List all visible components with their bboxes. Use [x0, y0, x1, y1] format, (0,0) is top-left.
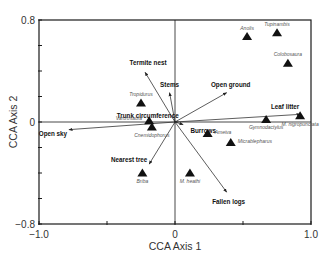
vector-burrows: Burrows — [175, 122, 216, 134]
vector-label: Open ground — [211, 81, 251, 89]
species-anolis: Anolis — [239, 25, 254, 41]
species-label: Gymnodactylus — [249, 124, 284, 130]
species-colobosaura: Colobosaura — [274, 51, 303, 67]
species-label: Tropidurus — [129, 91, 153, 97]
vector-nearest-tree: Nearest tree — [111, 122, 175, 164]
species-label: Anolis — [239, 25, 254, 31]
species-briba: Briba — [137, 169, 149, 185]
cca-biplot: −1.001.0−0.800.8 Termite nestStemsOpen g… — [0, 0, 333, 258]
triangle-marker-icon — [295, 111, 305, 119]
triangle-marker-icon — [137, 169, 147, 177]
species-label: Ameiva — [214, 129, 232, 135]
vector-label: Open sky — [39, 130, 68, 138]
x-axis-label: CCA Axis 1 — [149, 240, 202, 252]
species-tropidurus: Tropidurus — [129, 91, 153, 107]
species-tupinambis: Tupinambis — [264, 21, 290, 37]
triangle-marker-icon — [272, 28, 282, 36]
species-label: Colobosaura — [274, 51, 303, 57]
x-tick-label: 0 — [172, 229, 178, 240]
triangle-marker-icon — [136, 98, 146, 106]
x-tick-label: −1.0 — [29, 229, 49, 240]
triangle-marker-icon — [242, 32, 252, 40]
y-axis-label: CCA Axis 2 — [7, 96, 19, 149]
y-tick-label: 0 — [29, 117, 35, 128]
vector-label: Burrows — [190, 127, 216, 134]
vector-arrow — [175, 93, 227, 122]
vector-label: Stems — [160, 81, 179, 88]
triangle-marker-icon — [226, 138, 236, 146]
vector-label: Nearest tree — [111, 156, 148, 163]
species-label: Vanzosaura — [116, 115, 143, 121]
species-label: M. heathi — [180, 178, 201, 184]
species-ameiva: Ameiva — [203, 129, 232, 137]
y-tick-label: 0.8 — [21, 15, 35, 26]
species-label: Micrablepharus — [238, 138, 273, 144]
species-m-nigropunctata: M. nigropunctata — [281, 111, 318, 127]
vector-open-ground: Open ground — [175, 81, 251, 122]
vector-leaf-litter: Leaf litter — [175, 103, 300, 122]
species-label: Cnemidophorus — [134, 132, 170, 138]
triangle-marker-icon — [283, 59, 293, 67]
species-label: Briba — [137, 178, 149, 184]
triangle-marker-icon — [185, 169, 195, 177]
vector-arrow — [69, 122, 175, 130]
species-label: Tupinambis — [264, 21, 290, 27]
vector-label: Leaf litter — [271, 103, 300, 110]
x-tick-label: 1.0 — [304, 229, 318, 240]
vector-label: Fallen logs — [212, 198, 245, 206]
species-label: M. nigropunctata — [281, 121, 318, 127]
y-tick-label: −0.8 — [15, 219, 35, 230]
species-m-heathi: M. heathi — [180, 169, 201, 185]
vector-label: Termite nest — [130, 59, 168, 66]
species-micrablepharus: Micrablepharus — [226, 138, 273, 146]
